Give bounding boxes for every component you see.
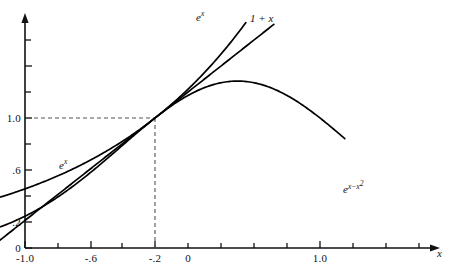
x-tick-label-zero: 0 — [185, 252, 191, 264]
curve-label-exp-x-minus-x-squared: ex−x2 — [343, 183, 363, 195]
curve-label-exp-x-left-exponent: x — [64, 157, 67, 166]
curve-exp-x — [0, 23, 246, 201]
gaussian-label-exponent: x−x2 — [348, 182, 364, 191]
curve-label-one-plus-x: 1 + x — [250, 12, 273, 24]
curve-one-plus-x — [0, 24, 274, 248]
x-ticks-group — [25, 241, 419, 248]
plot-figure: -1.0 -.6 -.2 0 1.0 0 .2 .6 1.0 ex 1 + x … — [0, 0, 451, 272]
y-tick-label-06: .6 — [0, 164, 21, 176]
curve-label-exp-x-top-exponent: x — [201, 9, 204, 18]
x-tick-label-neg-02: -.2 — [149, 252, 162, 264]
y-tick-label-02: .2 — [0, 216, 21, 228]
gaussian-exponent-b-power: 2 — [360, 178, 364, 187]
y-tick-label-10: 1.0 — [0, 112, 21, 124]
y-tick-label-zero: 0 — [0, 242, 21, 254]
x-tick-label-neg-06: -.6 — [85, 252, 98, 264]
y-axis-arrow — [21, 13, 28, 23]
curve-label-exp-x-top: ex — [196, 11, 204, 23]
x-axis-name: x — [437, 247, 442, 259]
axes-group — [21, 13, 440, 252]
guide-lines-group — [27, 118, 155, 248]
x-tick-label-one: 1.0 — [313, 252, 327, 264]
plot-canvas — [0, 0, 451, 272]
curve-label-exp-x-left: ex — [59, 159, 67, 171]
